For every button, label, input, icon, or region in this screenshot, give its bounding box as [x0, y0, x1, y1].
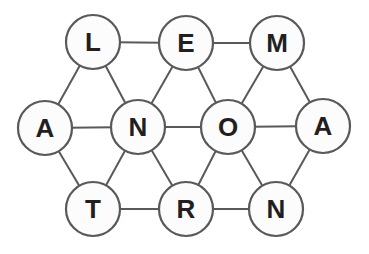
letter-node-T[interactable]: T	[66, 182, 120, 236]
letter-node-A2[interactable]: A	[296, 99, 350, 153]
node-letter-O: O	[218, 112, 238, 142]
node-letter-L: L	[85, 27, 101, 57]
node-letter-T: T	[85, 194, 101, 224]
puzzle-canvas: LEMANOATRN	[0, 0, 369, 254]
letter-node-N1[interactable]: N	[111, 100, 165, 154]
letter-node-R[interactable]: R	[159, 182, 213, 236]
letter-node-A1[interactable]: A	[18, 101, 72, 155]
node-letter-A1: A	[36, 113, 55, 143]
node-letter-M: M	[266, 28, 288, 58]
node-letter-R: R	[177, 194, 196, 224]
node-letter-N1: N	[129, 112, 148, 142]
letter-node-O[interactable]: O	[201, 100, 255, 154]
node-letter-A2: A	[314, 111, 333, 141]
node-letter-E: E	[177, 28, 194, 58]
letter-node-L[interactable]: L	[66, 15, 120, 69]
node-letter-N2: N	[267, 194, 286, 224]
letter-node-N2[interactable]: N	[249, 182, 303, 236]
puzzle-graph: LEMANOATRN	[0, 0, 369, 254]
letter-node-M[interactable]: M	[250, 16, 304, 70]
letter-node-E[interactable]: E	[159, 16, 213, 70]
